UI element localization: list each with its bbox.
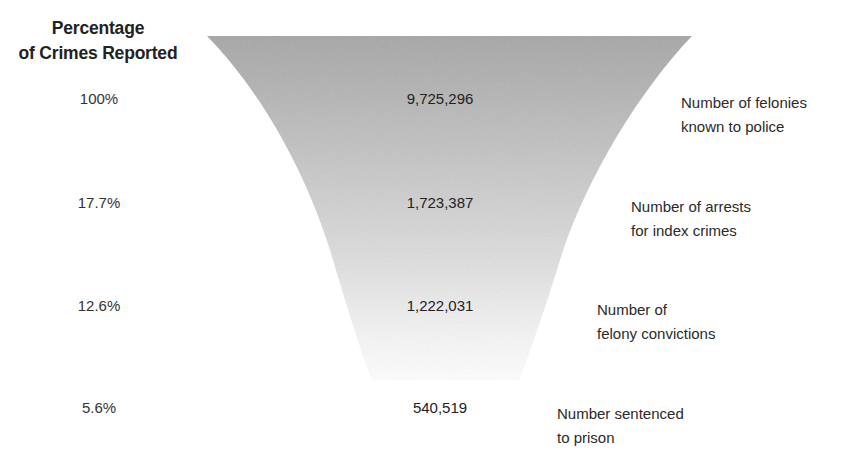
label-stage-1: Number of felonies known to police [681,91,807,139]
label-stage-2: Number of arrests for index crimes [631,195,751,243]
percent-stage-3: 12.6% [40,297,158,314]
percent-stage-1: 100% [40,90,158,107]
percent-stage-4: 5.6% [40,399,158,416]
percent-stage-2: 17.7% [40,194,158,211]
count-stage-1: 9,725,296 [330,90,550,107]
count-stage-4: 540,519 [330,399,550,416]
count-stage-3: 1,222,031 [330,297,550,314]
label-stage-4: Number sentenced to prison [557,402,684,450]
label-stage-3: Number of felony convictions [597,298,715,346]
count-stage-2: 1,723,387 [330,194,550,211]
